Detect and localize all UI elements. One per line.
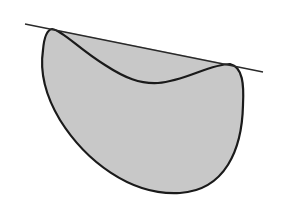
convex-hull-diagram — [0, 0, 283, 215]
convex-hull-region — [42, 29, 243, 193]
